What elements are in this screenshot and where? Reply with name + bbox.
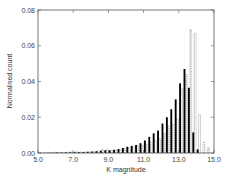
dotted-bar	[159, 139, 161, 153]
dotted-bar	[137, 146, 139, 153]
solid-bar	[184, 69, 186, 153]
solid-bar	[148, 137, 150, 153]
dotted-bar	[177, 119, 179, 153]
dotted-bar	[124, 149, 126, 153]
solid-bar	[192, 132, 194, 153]
solid-bar	[135, 145, 137, 153]
y-tick-label: 0.04	[21, 78, 35, 85]
y-tick-label: 0.02	[21, 114, 35, 121]
dotted-bar	[185, 74, 187, 153]
x-axis-label: K magnitude	[106, 166, 145, 174]
solid-bar-series	[38, 69, 198, 153]
dotted-bar	[150, 142, 152, 153]
histogram-chart: 5.07.09.011.013.015.0 0.000.020.040.060.…	[0, 0, 228, 178]
dotted-bar	[172, 124, 174, 153]
dotted-bar	[203, 142, 205, 153]
solid-bar	[113, 150, 115, 153]
solid-bar	[144, 140, 146, 153]
solid-bar	[140, 143, 142, 153]
x-tick-label: 11.0	[137, 156, 150, 163]
solid-bar	[104, 150, 106, 153]
y-tick-label: 0.08	[21, 7, 35, 14]
dotted-bar	[102, 149, 104, 153]
solid-bar	[118, 149, 120, 153]
dotted-bar	[146, 144, 148, 153]
x-tick-label: 5.0	[33, 156, 43, 163]
x-tick-label: 15.0	[207, 156, 221, 163]
dotted-bar	[199, 115, 201, 153]
solid-bar	[109, 150, 111, 153]
dotted-bar	[115, 150, 117, 153]
dotted-bar	[141, 145, 143, 153]
solid-bar	[197, 149, 199, 153]
solid-bar	[179, 83, 181, 153]
solid-bar	[162, 124, 164, 153]
solid-bar	[122, 148, 124, 153]
plot-frame	[38, 10, 214, 153]
solid-bar	[157, 131, 159, 153]
x-tick-label: 9.0	[104, 156, 114, 163]
solid-bar	[188, 88, 190, 153]
dotted-bar	[194, 33, 196, 153]
solid-bar	[126, 147, 128, 153]
solid-bar	[166, 117, 168, 153]
x-tick-label: 13.0	[172, 156, 186, 163]
dotted-bar	[190, 30, 192, 153]
dotted-bar	[168, 126, 170, 153]
solid-bar	[153, 133, 155, 153]
dotted-bar	[207, 148, 209, 153]
y-tick-label: 0.06	[21, 42, 35, 49]
y-axis-label: Normalised count	[6, 54, 13, 109]
solid-bar	[131, 146, 133, 153]
dotted-bar	[163, 133, 165, 153]
dotted-bar	[106, 149, 108, 153]
dotted-bar	[128, 148, 130, 153]
y-tick-label: 0.00	[21, 150, 35, 157]
dotted-bar	[181, 89, 183, 153]
dotted-bar	[155, 140, 157, 153]
solid-bar	[170, 109, 172, 153]
dotted-bar	[119, 149, 121, 153]
dotted-bar	[133, 147, 135, 153]
x-tick-label: 7.0	[68, 156, 78, 163]
solid-bar	[175, 99, 177, 153]
